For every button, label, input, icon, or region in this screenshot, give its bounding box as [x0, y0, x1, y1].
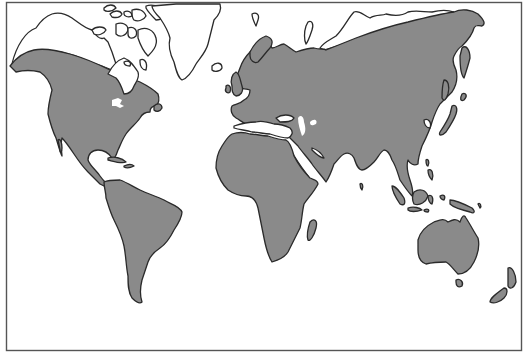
hokkaido — [461, 93, 466, 100]
hispaniola — [124, 165, 134, 168]
baja-california — [58, 139, 62, 152]
world-map — [0, 0, 528, 358]
taiwan — [426, 159, 429, 166]
new-zealand-north — [508, 268, 516, 288]
black-sea — [276, 115, 294, 122]
novaya-zemlya — [305, 21, 313, 44]
australia — [418, 216, 479, 274]
kamchatka — [460, 47, 470, 78]
madagascar — [307, 220, 316, 240]
svalbard — [252, 13, 259, 26]
south-america — [104, 180, 182, 303]
ireland — [225, 85, 230, 93]
new-zealand-south — [490, 288, 507, 303]
indonesia — [392, 186, 481, 213]
philippines — [428, 170, 433, 180]
tasmania — [456, 279, 463, 286]
greenland — [152, 4, 221, 80]
cuba — [108, 157, 126, 163]
iceland — [212, 63, 222, 71]
sri-lanka — [360, 183, 363, 190]
honshu — [439, 105, 456, 135]
newfoundland — [154, 104, 162, 111]
map-svg — [0, 0, 528, 358]
